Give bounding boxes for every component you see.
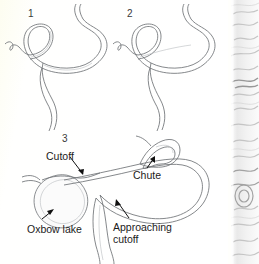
meander-evolution-figure: 1 2 3 Cutoff Chute Oxbow lake Approachin…	[0, 0, 259, 264]
label-approaching-cutoff-line1: Approaching	[113, 222, 172, 234]
label-cutoff: Cutoff	[46, 151, 74, 163]
label-chute: Chute	[133, 170, 161, 182]
aerial-photo-strip	[231, 0, 259, 264]
label-approaching-cutoff-line2: cutoff	[113, 234, 139, 246]
panel-2-channel	[113, 4, 215, 131]
panel-number-1: 1	[28, 8, 34, 19]
panel-number-3: 3	[62, 133, 68, 144]
panel-1-channel	[5, 4, 107, 131]
diagram-area: 1 2 3 Cutoff Chute Oxbow lake Approachin…	[0, 0, 228, 264]
label-oxbow-lake: Oxbow lake	[27, 224, 82, 236]
aerial-photo-texture	[231, 0, 259, 264]
panel-number-2: 2	[127, 8, 133, 19]
